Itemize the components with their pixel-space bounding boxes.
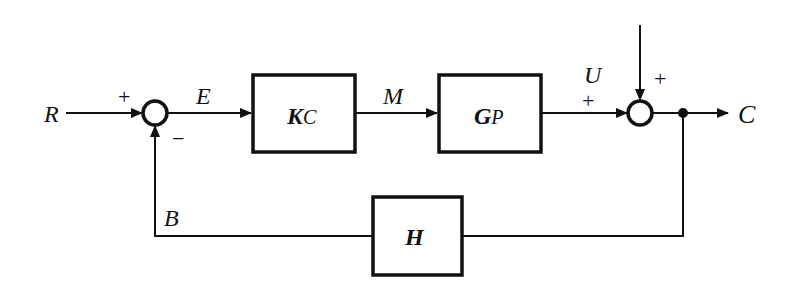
process-block-label: GP bbox=[474, 103, 504, 129]
block-diagram: R + − E KC M GP U + + C H B bbox=[0, 0, 795, 297]
feedback-block-label: H bbox=[404, 224, 425, 250]
signal-b-label: B bbox=[164, 205, 179, 231]
sum2-plus-left-sign: + bbox=[582, 88, 594, 113]
sum2-plus-top-sign: + bbox=[654, 66, 666, 91]
summing-junction-1 bbox=[143, 101, 167, 125]
signal-r-label: R bbox=[43, 101, 59, 127]
diagram-svg: R + − E KC M GP U + + C H B bbox=[0, 0, 795, 297]
sum1-minus-sign: − bbox=[172, 126, 184, 151]
signal-m-label: M bbox=[382, 83, 405, 109]
sum1-plus-sign: + bbox=[118, 84, 130, 109]
summing-junction-2 bbox=[628, 101, 652, 125]
signal-c-label: C bbox=[738, 100, 756, 129]
controller-block-label: KC bbox=[286, 103, 317, 129]
signal-e-label: E bbox=[195, 83, 211, 109]
signal-u-label: U bbox=[584, 62, 603, 88]
